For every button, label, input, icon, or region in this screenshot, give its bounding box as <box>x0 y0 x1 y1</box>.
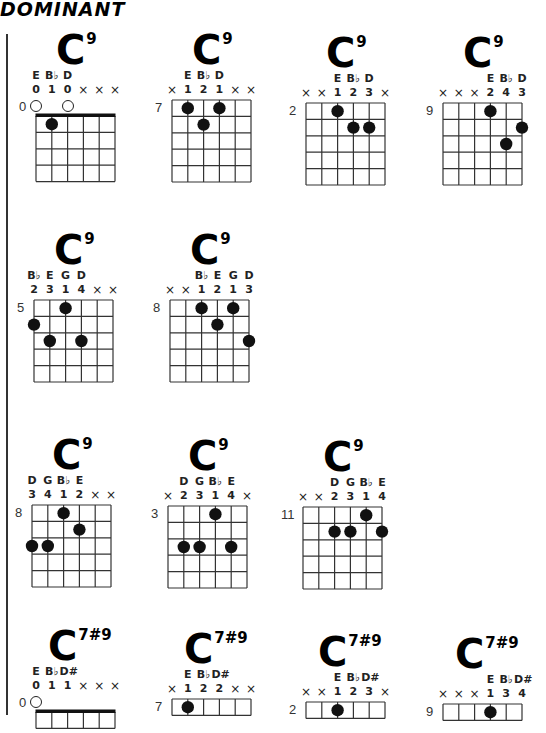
finger-dot <box>182 701 194 713</box>
fret-position-label: 9 <box>426 103 433 118</box>
finger-dot <box>209 508 221 520</box>
finger-number: 1 <box>330 87 346 99</box>
finger-number: 4 <box>40 489 56 501</box>
finger-dot <box>484 706 496 718</box>
note-label: D <box>514 73 530 85</box>
chord-root: C <box>318 629 347 675</box>
chord-extension: 9 <box>353 437 363 455</box>
chord-name: C7#9 <box>48 626 112 666</box>
finger-number: 2 <box>196 84 212 96</box>
note-label: B♭ <box>44 666 60 678</box>
note-label: D <box>241 270 257 282</box>
note-label: B♭ <box>358 477 374 489</box>
chord-name: C7#9 <box>318 632 382 672</box>
fret-position-label: 0 <box>19 99 26 114</box>
finger-number: 1 <box>56 489 72 501</box>
muted-string-icon: × <box>451 688 467 700</box>
finger-dot <box>44 335 56 347</box>
chord-root: C <box>455 631 484 677</box>
finger-dot <box>363 121 375 133</box>
finger-dot <box>182 102 194 114</box>
finger-dot <box>57 507 69 519</box>
fretboard-grid <box>36 116 125 192</box>
fret-position-label: 7 <box>155 100 162 115</box>
finger-dot <box>227 302 239 314</box>
finger-number: 4 <box>498 87 514 99</box>
muted-string-icon: × <box>377 686 393 698</box>
note-label: D <box>24 475 40 487</box>
finger-number: 2 <box>26 284 42 296</box>
finger-number: 1 <box>44 84 60 96</box>
chord-root: C <box>326 30 355 76</box>
fret-position-label: 7 <box>155 699 162 714</box>
note-label: B♭ <box>345 672 361 684</box>
muted-string-icon: × <box>75 84 91 96</box>
fretboard-grid <box>172 100 261 192</box>
finger-dot <box>211 318 223 330</box>
finger-number: 3 <box>514 87 530 99</box>
note-label: D <box>361 73 377 85</box>
note-label: E <box>42 270 58 282</box>
fretboard-grid <box>36 712 125 733</box>
fret-position-label: 9 <box>426 704 433 719</box>
fret-position-label: 5 <box>17 300 24 315</box>
note-label: B♭ <box>498 73 514 85</box>
finger-dot <box>331 105 343 117</box>
fret-position-label: 2 <box>289 702 296 717</box>
finger-number: 3 <box>498 688 514 700</box>
finger-number: 3 <box>241 284 257 296</box>
muted-string-icon: × <box>87 489 103 501</box>
chord-root: C <box>190 227 219 273</box>
note-label: E <box>330 73 346 85</box>
muted-string-icon: × <box>75 680 91 692</box>
muted-string-icon: × <box>377 87 393 99</box>
finger-dot <box>178 541 190 553</box>
finger-number: 1 <box>58 284 74 296</box>
finger-number: 1 <box>180 683 196 695</box>
note-label: D <box>176 476 192 488</box>
chord-extension: 9 <box>356 33 366 51</box>
finger-number: 1 <box>207 490 223 502</box>
muted-string-icon: × <box>107 680 123 692</box>
note-label: B♭ <box>196 70 212 82</box>
finger-number: 2 <box>345 686 361 698</box>
fret-position-label: 11 <box>281 507 295 522</box>
finger-dot <box>193 541 205 553</box>
finger-number: 0 <box>28 84 44 96</box>
section-divider-line <box>6 34 8 715</box>
note-label: D <box>211 70 227 82</box>
finger-number: 1 <box>194 284 210 296</box>
finger-dot <box>42 540 54 552</box>
finger-number: 3 <box>361 87 377 99</box>
finger-dot <box>360 509 372 521</box>
finger-number: 0 <box>28 680 44 692</box>
open-string-icon <box>62 100 74 112</box>
finger-dot <box>195 302 207 314</box>
chord-name: C9 <box>54 230 95 270</box>
finger-number: 3 <box>192 490 208 502</box>
finger-number: 3 <box>361 686 377 698</box>
fretboard-grid <box>170 300 259 392</box>
fretboard-grid <box>306 103 395 195</box>
chord-extension: 9 <box>493 33 503 51</box>
finger-number: 2 <box>209 284 225 296</box>
chord-name: C7#9 <box>184 629 248 669</box>
muted-string-icon: × <box>243 84 259 96</box>
note-label: G <box>40 475 56 487</box>
open-string-icon <box>30 696 42 708</box>
fretboard-grid <box>172 699 261 725</box>
finger-number: 1 <box>211 84 227 96</box>
note-label: B♭ <box>207 476 223 488</box>
finger-number: 1 <box>482 688 498 700</box>
note-label: E <box>209 270 225 282</box>
muted-string-icon: × <box>435 87 451 99</box>
chord-extension: 9 <box>220 230 230 248</box>
fretboard-grid <box>168 506 257 598</box>
finger-number: 1 <box>358 491 374 503</box>
muted-string-icon: × <box>467 87 483 99</box>
finger-number: 2 <box>327 491 343 503</box>
muted-string-icon: × <box>162 284 178 296</box>
finger-number: 3 <box>342 491 358 503</box>
chord-extension: 7#9 <box>485 634 518 652</box>
muted-string-icon: × <box>107 84 123 96</box>
